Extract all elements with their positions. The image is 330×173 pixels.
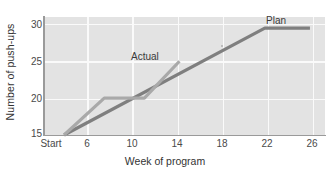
x-tick-10: 10 xyxy=(126,139,137,149)
x-tick-26: 26 xyxy=(306,139,317,149)
scan-speck xyxy=(221,45,223,47)
push-ups-line-chart: Number of push-ups 30 25 20 15 Start 6 xyxy=(0,0,330,173)
y-tick-25: 25 xyxy=(24,57,42,67)
series-line-actual xyxy=(64,61,179,135)
x-tick-18: 18 xyxy=(216,139,227,149)
y-tick-15: 15 xyxy=(24,129,42,139)
x-axis-title: Week of program xyxy=(0,155,330,167)
plot-area xyxy=(44,17,325,135)
y-tick-30: 30 xyxy=(24,20,42,30)
x-tick-22: 22 xyxy=(261,139,272,149)
series-label-plan: Plan xyxy=(266,16,286,26)
y-axis-line xyxy=(43,16,45,136)
x-tick-6: 6 xyxy=(84,139,90,149)
series-line-plan xyxy=(64,28,310,135)
y-axis-title-text: Number of push-ups xyxy=(4,23,16,120)
series-label-actual: Actual xyxy=(131,52,159,62)
y-axis-title: Number of push-ups xyxy=(0,0,20,143)
data-series-svg xyxy=(44,17,325,135)
x-axis-line xyxy=(43,135,326,137)
x-tick-14: 14 xyxy=(171,139,182,149)
y-tick-20: 20 xyxy=(24,94,42,104)
x-tick-start: Start xyxy=(40,139,61,149)
x-axis-ticks: Start 6 10 14 18 22 26 xyxy=(0,139,330,153)
